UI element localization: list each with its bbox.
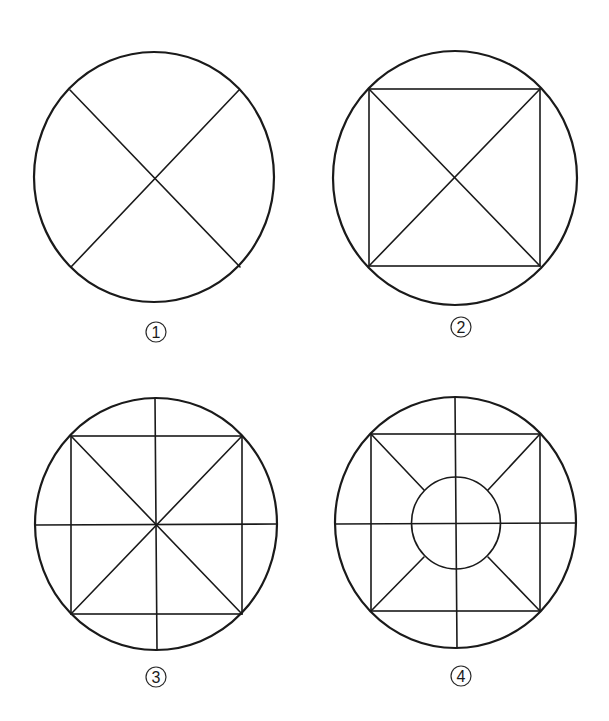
panel-2: 2 xyxy=(333,51,577,337)
panel-label: 2 xyxy=(451,317,471,337)
label-number: 4 xyxy=(457,668,466,685)
panel-4: 4 xyxy=(335,397,576,686)
panel-1: 1 xyxy=(34,52,274,342)
diagonal-tr-inner-line xyxy=(488,434,540,490)
panel-label: 4 xyxy=(451,666,471,686)
diagonal-br-inner-line xyxy=(488,557,540,611)
label-number: 1 xyxy=(152,324,161,341)
horizontal-axis-line xyxy=(35,524,277,525)
diagonal-tl-inner-line xyxy=(371,434,424,490)
diagonal-bl-inner-line xyxy=(371,557,424,611)
label-number: 2 xyxy=(457,319,466,336)
panel-3: 3 xyxy=(35,398,277,687)
label-number: 3 xyxy=(152,669,161,686)
panel-label: 3 xyxy=(146,667,166,687)
horizontal-axis-line xyxy=(335,523,576,524)
panel-label: 1 xyxy=(146,322,166,342)
geometric-figure-canvas: 1234 xyxy=(0,0,609,721)
panels-root: 1234 xyxy=(34,51,577,687)
